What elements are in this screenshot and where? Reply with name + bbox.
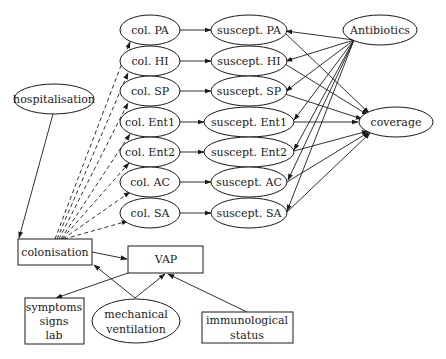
diagram-canvas: col. PA col. HI col. SP col. Ent1 col. E… xyxy=(0,0,446,359)
node-col-pa[interactable]: col. PA xyxy=(120,15,180,45)
node-vap[interactable]: VAP xyxy=(128,246,203,273)
edge-mechvent-vap xyxy=(135,274,165,298)
edge-susent2-cov xyxy=(294,131,368,151)
node-colonisation[interactable]: colonisation xyxy=(18,239,92,265)
node-label: suscept. SA xyxy=(217,207,283,220)
node-label: col. AC xyxy=(130,176,170,189)
node-col-sa[interactable]: col. SA xyxy=(120,198,180,228)
edge-colonisation-colpa xyxy=(55,42,130,239)
node-mechanical-ventilation[interactable]: mechanical ventilation xyxy=(92,299,180,343)
edge-sussp-cov xyxy=(285,94,362,119)
edge-ab-susac xyxy=(288,40,354,180)
node-label: hospitalisation xyxy=(13,93,95,106)
node-label-line1: mechanical xyxy=(104,308,168,321)
edge-ab-susent2 xyxy=(294,40,354,150)
edge-colonisation-colsp xyxy=(59,103,128,239)
edge-sussa-cov xyxy=(287,133,370,212)
node-suscept-ac[interactable]: suscept. AC xyxy=(211,167,287,197)
edge-colonisation-colsa xyxy=(64,221,128,239)
edge-ab-susent1 xyxy=(294,40,354,120)
node-col-ac[interactable]: col. AC xyxy=(120,167,180,197)
node-label: col. Ent2 xyxy=(125,146,175,159)
node-label: col. HI xyxy=(131,55,168,68)
node-immunological-status[interactable]: immunological status xyxy=(202,312,293,343)
node-label: suscept. HI xyxy=(217,55,280,68)
nodes: col. PA col. HI col. SP col. Ent1 col. E… xyxy=(13,15,433,344)
node-suscept-sp[interactable]: suscept. SP xyxy=(211,76,287,106)
node-label: col. Ent1 xyxy=(125,116,175,129)
edge-colonisation-vap xyxy=(92,252,127,259)
node-label: col. PA xyxy=(131,24,170,37)
node-suscept-sa[interactable]: suscept. SA xyxy=(211,198,287,228)
node-label-line3: lab xyxy=(45,329,62,342)
node-label: suscept. PA xyxy=(217,24,282,37)
node-label: col. SA xyxy=(131,207,171,220)
node-label: suscept. SP xyxy=(217,85,282,98)
node-label: coverage xyxy=(371,116,422,129)
edge-vap-symptoms xyxy=(56,273,128,298)
node-label: suscept. AC xyxy=(216,176,282,189)
edge-suspa-cov xyxy=(285,33,369,113)
node-hospitalisation[interactable]: hospitalisation xyxy=(13,84,95,114)
node-label: suscept. Ent2 xyxy=(211,146,287,159)
node-label: colonisation xyxy=(21,246,88,259)
node-label-line2: signs xyxy=(40,315,69,328)
edge-hosp-colonisation xyxy=(19,114,53,238)
node-col-ent2[interactable]: col. Ent2 xyxy=(120,137,180,167)
node-col-sp[interactable]: col. SP xyxy=(120,76,180,106)
node-col-ent1[interactable]: col. Ent1 xyxy=(120,107,180,137)
node-label-line1: symptoms xyxy=(26,301,83,314)
node-suscept-ent1[interactable]: suscept. Ent1 xyxy=(204,107,294,137)
node-col-hi[interactable]: col. HI xyxy=(120,46,180,76)
node-suscept-pa[interactable]: suscept. PA xyxy=(211,15,287,45)
node-label-line1: immunological xyxy=(206,314,289,327)
node-suscept-ent2[interactable]: suscept. Ent2 xyxy=(204,137,294,167)
edge-immuno-vap xyxy=(168,274,247,312)
node-label: VAP xyxy=(154,253,178,266)
node-symptoms-signs-lab[interactable]: symptoms signs lab xyxy=(25,298,84,344)
node-label: Antibiotics xyxy=(349,24,410,37)
node-label: suscept. Ent1 xyxy=(211,116,287,129)
node-coverage[interactable]: coverage xyxy=(359,107,433,137)
node-label-line2: status xyxy=(230,329,264,342)
node-antibiotics[interactable]: Antibiotics xyxy=(343,15,417,45)
node-suscept-hi[interactable]: suscept. HI xyxy=(211,46,287,76)
node-label: col. SP xyxy=(131,85,170,98)
edge-colonisation-colent2 xyxy=(62,163,129,239)
node-label-line2: ventilation xyxy=(105,323,165,336)
